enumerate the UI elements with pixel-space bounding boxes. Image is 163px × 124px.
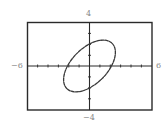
plot-area [0,0,163,124]
x-min-label: −6 [11,62,23,70]
y-min-label: −4 [83,114,95,122]
y-max-label: 4 [86,10,91,18]
x-max-label: 6 [156,62,161,70]
